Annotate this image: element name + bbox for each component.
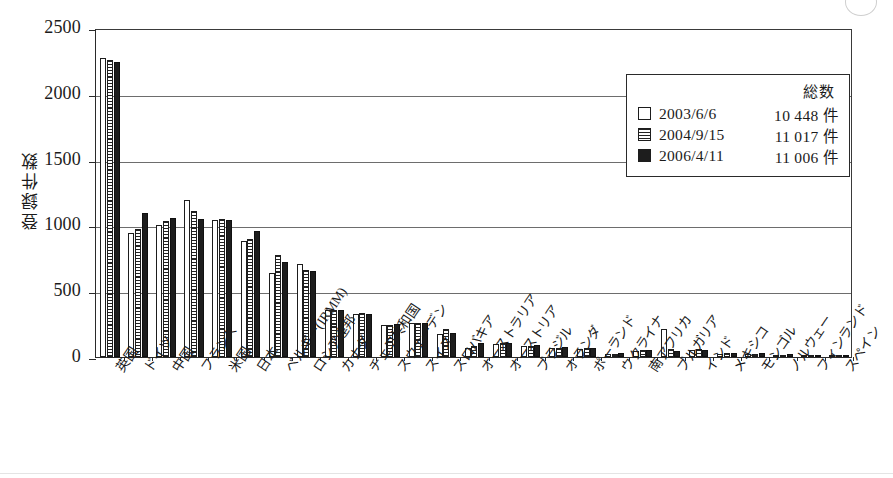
x-axis-tick: [545, 357, 546, 361]
y-axis-tick: [89, 359, 96, 360]
legend-series-date: 2004/9/15: [659, 126, 751, 144]
x-axis-tick: [769, 357, 770, 361]
y-axis-tick-label: 2000: [0, 83, 81, 104]
bar-group: [601, 30, 629, 357]
legend-series-total: 11 006 件: [751, 145, 839, 167]
legend: 総数 2003/6/610 448 件2004/9/1511 017 件2006…: [626, 74, 850, 177]
scan-artifact-circle: [845, 0, 877, 16]
bar: [787, 354, 793, 357]
bar: [696, 349, 702, 357]
x-axis-tick: [376, 357, 377, 361]
bar: [191, 211, 197, 357]
bar: [415, 323, 421, 357]
chart-figure: 登録件数 05001000150020002500 英国ドイツ中国フランス米国日…: [0, 0, 893, 478]
y-axis-tick: [89, 30, 96, 31]
bar-group: [264, 30, 292, 357]
bar: [184, 200, 190, 357]
bar: [387, 325, 393, 357]
bar: [338, 310, 344, 357]
bar: [100, 58, 106, 357]
legend-item: 2006/4/1111 006 件: [638, 145, 839, 166]
x-axis-tick: [152, 357, 153, 361]
legend-swatch-white: [638, 107, 651, 120]
y-axis-tick-label: 1500: [0, 149, 81, 170]
x-axis-tick: [292, 357, 293, 361]
bar: [752, 354, 758, 357]
bar: [219, 219, 225, 357]
bar: [717, 354, 723, 357]
y-axis-tick-label: 500: [0, 280, 81, 301]
x-axis-tick: [853, 357, 854, 361]
bar: [353, 314, 359, 357]
bar: [590, 348, 596, 357]
bar: [674, 351, 680, 357]
bar: [450, 333, 456, 357]
bar: [443, 329, 449, 357]
bar: [584, 348, 590, 357]
bar-group: [320, 30, 348, 357]
bar: [254, 231, 260, 357]
bar: [829, 355, 835, 357]
bar: [471, 346, 477, 357]
bar: [646, 350, 652, 357]
bar: [310, 271, 316, 357]
legend-series-date: 2003/6/6: [659, 105, 751, 123]
legend-swatch-striped: [638, 128, 651, 141]
x-axis-tick: [124, 357, 125, 361]
bar: [114, 62, 120, 357]
x-axis-tick: [741, 357, 742, 361]
bar: [282, 262, 288, 357]
x-axis-tick: [713, 357, 714, 361]
bar: [780, 355, 786, 357]
bar: [437, 334, 443, 357]
bar: [534, 345, 540, 358]
y-axis-tick-label: 2500: [0, 17, 81, 38]
page-edge-line: [0, 473, 893, 474]
x-axis-tick: [404, 357, 405, 361]
y-axis-tick: [89, 96, 96, 97]
bar: [702, 350, 708, 357]
x-axis-tick: [517, 357, 518, 361]
bar: [521, 346, 527, 357]
x-axis-tick: [601, 357, 602, 361]
legend-swatch-solid: [638, 149, 651, 162]
bar: [422, 323, 428, 357]
bar: [528, 346, 534, 357]
bar: [156, 225, 162, 357]
x-axis-tick: [432, 357, 433, 361]
bar: [107, 60, 113, 357]
x-axis-tick: [348, 357, 349, 361]
bar: [493, 344, 499, 357]
bar: [163, 221, 169, 357]
bar: [142, 213, 148, 357]
x-axis-tick: [489, 357, 490, 361]
x-axis-tick: [208, 357, 209, 361]
bar: [640, 350, 646, 357]
bar: [212, 220, 218, 357]
y-axis-tick-label: 1000: [0, 214, 81, 235]
bar: [759, 353, 765, 357]
bar-group: [376, 30, 404, 357]
bar: [605, 354, 611, 357]
y-axis-tick: [89, 293, 96, 294]
bar: [689, 350, 695, 357]
legend-item: 2003/6/610 448 件: [638, 103, 839, 124]
bar: [241, 241, 247, 357]
bar: [247, 239, 253, 357]
bar: [562, 347, 568, 357]
x-axis-tick: [460, 357, 461, 361]
x-axis-tick: [236, 357, 237, 361]
x-axis-tick: [825, 357, 826, 361]
bar: [724, 353, 730, 357]
x-axis-tick: [797, 357, 798, 361]
y-axis-tick: [89, 227, 96, 228]
legend-series-date: 2006/4/11: [659, 147, 751, 165]
y-axis-tick: [89, 162, 96, 163]
bar: [303, 270, 309, 358]
bar-group: [180, 30, 208, 357]
bar: [731, 353, 737, 357]
bar: [478, 343, 484, 357]
bar-group: [404, 30, 432, 357]
bar: [668, 349, 674, 357]
bar: [506, 343, 512, 357]
